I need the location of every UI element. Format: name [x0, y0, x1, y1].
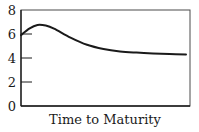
- y-ticks: [21, 34, 32, 82]
- y-tick-labels: 8 6 4 2 0: [8, 3, 16, 114]
- y-tick-label: 8: [8, 3, 16, 18]
- plot-frame: [21, 10, 190, 106]
- yield-curve-chart: 8 6 4 2 0 Time to Maturity: [0, 0, 199, 132]
- yield-curve-line: [21, 25, 186, 55]
- y-tick-label: 0: [8, 99, 16, 114]
- y-tick-label: 4: [8, 51, 16, 66]
- y-tick-label: 6: [8, 27, 16, 42]
- x-axis-label: Time to Maturity: [49, 112, 161, 127]
- y-tick-label: 2: [8, 75, 16, 90]
